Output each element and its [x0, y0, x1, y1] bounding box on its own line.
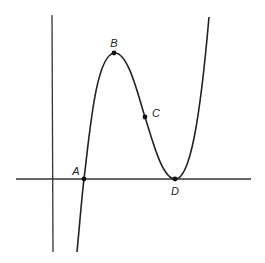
point-d: D — [171, 177, 179, 197]
point-d-marker — [173, 177, 178, 182]
cubic-curve — [77, 17, 209, 252]
point-c: C — [143, 107, 160, 119]
point-b-label: B — [110, 37, 117, 49]
point-a-label: A — [71, 165, 79, 177]
point-c-label: C — [152, 107, 160, 119]
point-a-marker — [82, 177, 87, 182]
cubic-graph-diagram: A B C D — [0, 0, 265, 263]
point-b-marker — [112, 51, 117, 56]
y-axis — [52, 15, 53, 252]
point-d-label: D — [171, 185, 179, 197]
point-c-marker — [143, 115, 148, 120]
